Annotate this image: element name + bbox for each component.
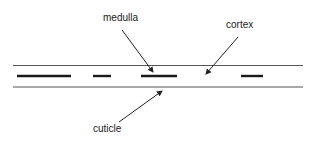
cuticle-arrow-icon (119, 91, 162, 122)
label-arrows (119, 30, 238, 122)
hair-diagram: medulla cortex cuticle (0, 0, 316, 143)
cortex-arrow-icon (206, 37, 238, 74)
cortex-label: cortex (226, 20, 253, 30)
medulla-label: medulla (103, 13, 138, 23)
cuticle-label: cuticle (93, 124, 121, 134)
hair-shaft-drawing (0, 0, 316, 143)
